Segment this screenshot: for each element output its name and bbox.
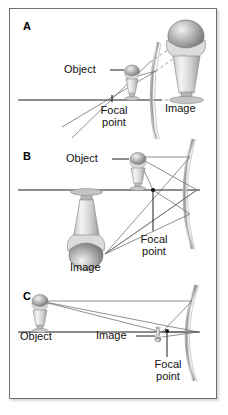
focal-line-2: point [142, 245, 166, 257]
focal-line-2: point [156, 370, 180, 382]
panel-b: B [10, 139, 216, 279]
concave-mirror-arc [151, 42, 160, 139]
image-figure [67, 189, 105, 270]
panel-a-object-label: Object [64, 64, 96, 76]
panel-a-focal-label: Focal point [94, 105, 134, 128]
object-figure [32, 295, 48, 333]
panel-b-focal-label: Focal point [134, 234, 174, 257]
object-figure [130, 153, 146, 191]
panel-c: C [10, 279, 216, 398]
panel-c-object-label: Object [20, 331, 52, 343]
panel-b-image-label: Image [70, 262, 101, 274]
image-figure [166, 20, 205, 104]
concave-mirror-arc [184, 139, 194, 249]
panel-c-image-label: Image [96, 330, 127, 342]
focal-line-1: Focal [141, 233, 168, 245]
panel-c-focal-label: Focal point [148, 359, 188, 382]
panel-a: A [10, 9, 216, 139]
panel-b-object-label: Object [66, 153, 98, 165]
figure-root: A [0, 0, 228, 415]
focal-line-1: Focal [101, 104, 128, 116]
panel-b-diagram [10, 139, 216, 279]
focal-line-1: Focal [155, 358, 182, 370]
panel-a-image-label: Image [165, 103, 196, 115]
image-figure [155, 327, 161, 342]
focal-line-2: point [102, 116, 126, 128]
figure-frame: A [9, 8, 217, 399]
object-figure [125, 65, 140, 101]
